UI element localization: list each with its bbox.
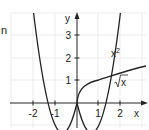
- tick-label-y-1: 1: [65, 75, 71, 86]
- tick-label-x-minus-1: -1: [51, 108, 60, 119]
- curve-label-sqrt-x: x: [115, 75, 129, 88]
- svg-text:x: x: [121, 77, 126, 88]
- curve-label-x-squared: x2: [111, 47, 120, 59]
- x-axis-arrow-icon: [141, 101, 148, 106]
- x-axis-label: x: [134, 108, 139, 119]
- tick-label-y-3: 3: [65, 30, 71, 41]
- function-plot: -2 -1 1 2 1 2 3 x y x2 x: [0, 0, 149, 130]
- curve-sqrt-x: [77, 66, 146, 103]
- tick-label-x-2: 2: [117, 108, 123, 119]
- y-axis-label: y: [65, 13, 70, 24]
- tick-label-x-minus-2: -2: [29, 108, 38, 119]
- tick-label-y-2: 2: [65, 53, 71, 64]
- tick-label-x-1: 1: [95, 108, 101, 119]
